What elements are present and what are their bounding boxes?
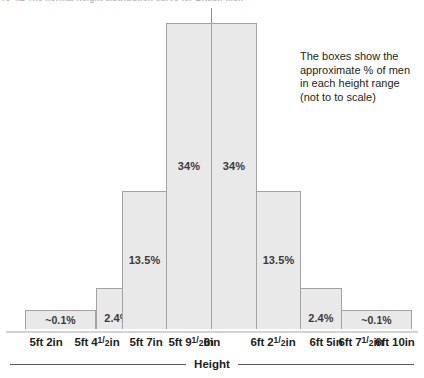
axis-rule-right: [238, 364, 414, 365]
bar-7: ~0.1%: [341, 310, 412, 329]
bar-3-label: 34%: [167, 160, 211, 172]
tick-6in-text: 6in: [204, 336, 220, 348]
bar-5-label: 13.5%: [257, 254, 300, 266]
bar-3: 34%: [166, 23, 212, 329]
bar-6: 2.4%: [300, 288, 342, 329]
tick-6ft-7.5in-text: 6ft 7: [338, 336, 361, 348]
x-axis-title: Height: [194, 358, 230, 370]
annotation-line-1: The boxes show the: [300, 50, 424, 64]
bar-2-label: 13.5%: [123, 254, 166, 266]
annotation-line-3: in each height range: [300, 77, 424, 91]
x-axis-title-row: Height: [10, 358, 414, 370]
annotation-line-2: approximate % of men: [300, 64, 424, 78]
chart-annotation: The boxes show the approximate % of men …: [300, 50, 424, 104]
axis-baseline: [6, 331, 418, 333]
bar-6-label: 2.4%: [301, 312, 341, 324]
x-axis-tick-labels: 5ft 2in 5ft 41/2in 5ft 7in 5ft 91/2in 6i…: [0, 336, 424, 356]
bar-0-label: ~0.1%: [26, 314, 95, 326]
normal-distribution-figure: re 4.2 The normal height distribution cu…: [0, 0, 424, 378]
bar-5: 13.5%: [256, 191, 301, 329]
tick-5ft-4.5in-text: 5ft 4: [74, 336, 97, 348]
bar-4-label: 34%: [212, 160, 256, 172]
bar-2: 13.5%: [122, 191, 167, 329]
bar-0: ~0.1%: [25, 310, 96, 329]
axis-rule-left: [10, 364, 186, 365]
tick-6ft-10in-text: 6ft 10in: [375, 336, 414, 348]
annotation-line-4: (not to to scale): [300, 91, 424, 105]
tick-6ft-10in: 6ft 10in: [366, 336, 424, 348]
bar-7-label: ~0.1%: [342, 314, 411, 326]
tick-6ft-2.5in-text: 6ft 2: [250, 336, 273, 348]
bar-4: 34%: [211, 23, 257, 329]
fraction-one-half: 1/2: [274, 335, 286, 345]
